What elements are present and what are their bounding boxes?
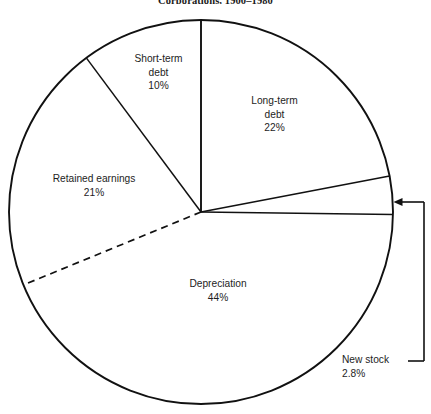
pie-chart-graphic [0, 0, 431, 414]
slice-label-short-term-debt: Short-term debt 10% [106, 52, 211, 93]
slice-label-long-term-debt: Long-term debt 22% [222, 94, 327, 135]
slice-value-new-stock: 2.8% [342, 367, 422, 381]
slice-label-new-stock-line1: New stock [342, 353, 422, 367]
slice-label-retained-earnings-line1: Retained earnings [24, 172, 164, 186]
slice-label-retained-earnings: Retained earnings 21% [24, 172, 164, 199]
slice-label-long-term-debt-line2: debt [222, 108, 327, 122]
pie-chart-figure: Corporations, 1900–1980 Short-term debt … [0, 0, 431, 414]
slice-label-depreciation: Depreciation 44% [152, 277, 284, 304]
slice-label-short-term-debt-line2: debt [106, 66, 211, 80]
slice-value-depreciation: 44% [152, 291, 284, 305]
slice-value-short-term-debt: 10% [106, 79, 211, 93]
slice-value-long-term-debt: 22% [222, 121, 327, 135]
slice-label-depreciation-line1: Depreciation [152, 277, 284, 291]
slice-value-retained-earnings: 21% [24, 186, 164, 200]
slice-label-long-term-debt-line1: Long-term [222, 94, 327, 108]
new-stock-callout-arrowhead [394, 198, 403, 206]
slice-label-short-term-debt-line1: Short-term [106, 52, 211, 66]
slice-label-new-stock: New stock 2.8% [342, 353, 422, 380]
